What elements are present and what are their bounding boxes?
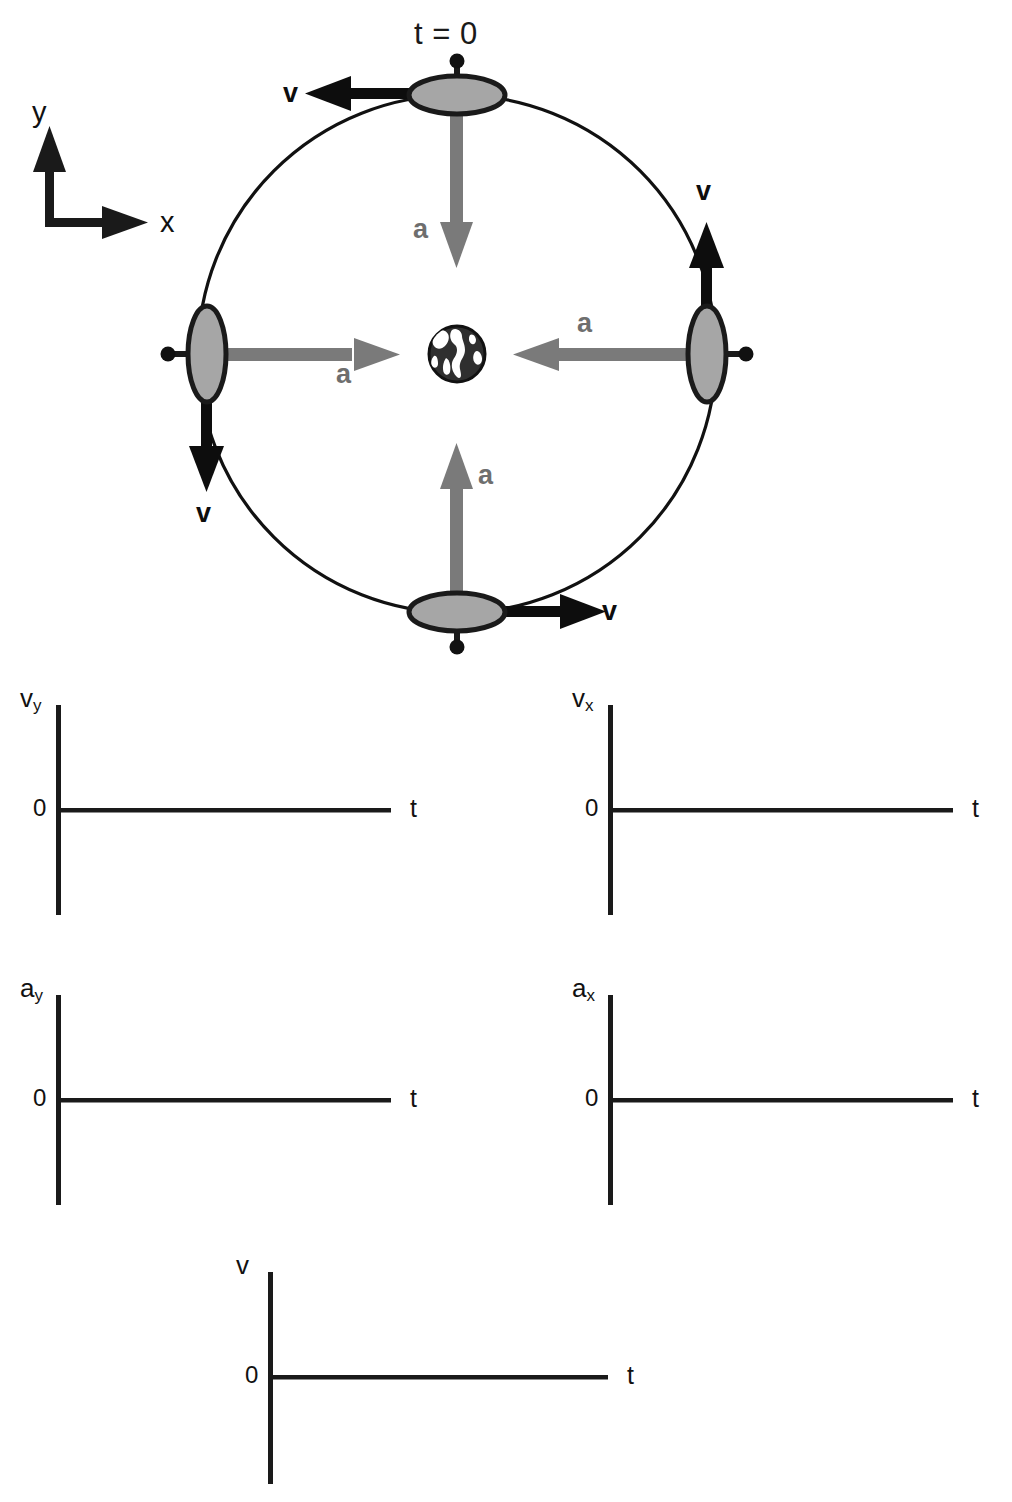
graph-vy-axes	[56, 705, 391, 915]
x-axis-arrowhead	[102, 206, 148, 239]
graph-v-axes	[268, 1272, 608, 1484]
graph-vx-x-label: t	[972, 796, 979, 821]
graph-ax-y-subscript: x	[586, 986, 595, 1005]
satellite-right	[513, 222, 754, 402]
acceleration-arrow-left	[207, 338, 400, 371]
graph-ay-x-label: t	[410, 1086, 417, 1111]
graph-vx-origin-label: 0	[585, 796, 598, 820]
graph-vy-origin-label: 0	[33, 796, 46, 820]
graph-ay-axes	[56, 995, 391, 1205]
acceleration-label-top: a	[413, 216, 428, 243]
graph-vy-x-label: t	[410, 796, 417, 821]
graph-v-y-label: v	[236, 1252, 249, 1281]
time-zero-label: t = 0	[414, 18, 478, 49]
satellite-body-top	[409, 76, 505, 114]
velocity-arrow-left	[189, 390, 224, 492]
graph-ax-y-label: ax	[572, 975, 595, 1004]
graph-vx-y-label: vx	[572, 685, 594, 714]
satellite-body-right	[688, 306, 726, 402]
graph-v-origin-label: 0	[245, 1363, 258, 1387]
graph-ax-x-label: t	[972, 1086, 979, 1111]
velocity-label-top: v	[283, 80, 298, 107]
coordinate-axes	[33, 126, 148, 239]
satellite-left	[161, 306, 401, 492]
satellite-top	[305, 54, 505, 269]
earth-globe-icon	[429, 326, 485, 382]
satellite-body-bottom	[409, 593, 505, 631]
graph-ax-x-axis	[608, 1098, 953, 1103]
diagram-svg	[0, 0, 1012, 1502]
acceleration-arrow-bottom	[440, 443, 473, 613]
graph-vy-y-label: vy	[20, 685, 42, 714]
graph-ax-axes	[608, 995, 953, 1205]
graph-ay-y-subscript: y	[34, 986, 43, 1005]
graph-vx-axes	[608, 705, 953, 915]
acceleration-label-left: a	[336, 361, 351, 388]
graph-vy-y-subscript: y	[33, 696, 42, 715]
graph-v-x-label: t	[627, 1363, 634, 1388]
graph-ax-y-symbol: a	[572, 973, 586, 1003]
antenna-dish-top	[450, 54, 465, 69]
figure-canvas: t = 0 y x v v v v a a a a vy 0 t vx 0 t …	[0, 0, 1012, 1502]
x-axis-label: x	[160, 208, 175, 237]
velocity-label-left: v	[196, 500, 211, 527]
acceleration-arrow-top	[440, 95, 473, 268]
graph-vy-x-axis	[56, 808, 391, 813]
graph-ay-y-symbol: a	[20, 973, 34, 1003]
graph-ay-x-axis	[56, 1098, 391, 1103]
acceleration-arrow-right	[513, 338, 707, 371]
graph-ay-origin-label: 0	[33, 1086, 46, 1110]
acceleration-label-right: a	[577, 310, 592, 337]
satellite-body-left	[188, 306, 226, 402]
graph-ax-origin-label: 0	[585, 1086, 598, 1110]
antenna-dish-bottom	[450, 640, 465, 655]
satellite-bottom	[409, 443, 606, 655]
antenna-dish-left	[161, 347, 176, 362]
acceleration-label-bottom: a	[478, 462, 493, 489]
graph-vx-y-symbol: v	[572, 683, 585, 713]
graph-vx-y-subscript: x	[585, 696, 594, 715]
graph-vy-y-symbol: v	[20, 683, 33, 713]
velocity-label-bottom: v	[602, 598, 617, 625]
graph-ay-y-label: ay	[20, 975, 43, 1004]
y-axis-label: y	[32, 98, 47, 127]
velocity-label-right: v	[696, 178, 711, 205]
graph-v-x-axis	[268, 1375, 608, 1380]
y-axis-arrowhead	[33, 126, 66, 172]
antenna-dish-right	[739, 347, 754, 362]
graph-vx-x-axis	[608, 808, 953, 813]
graph-v-y-symbol: v	[236, 1250, 249, 1280]
